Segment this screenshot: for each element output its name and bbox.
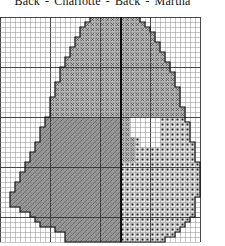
label-back-right: Back <box>115 0 140 8</box>
center-divider <box>120 17 122 242</box>
knitting-chart-grid <box>0 17 203 244</box>
label-back-left: Back <box>15 0 40 8</box>
chart-title: Back-Charlotte-Back-Martha <box>0 0 205 9</box>
label-martha: Martha <box>155 0 191 8</box>
label-charlotte: Charlotte <box>54 0 100 8</box>
